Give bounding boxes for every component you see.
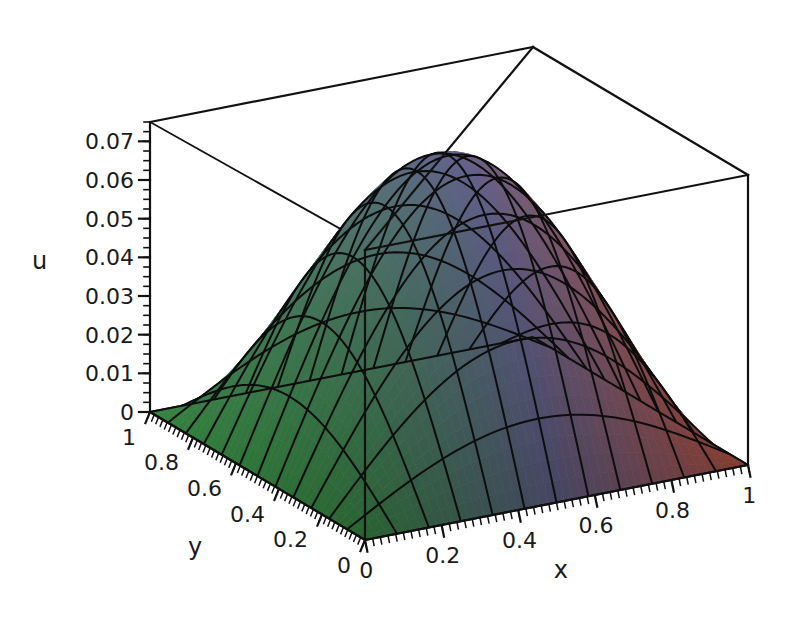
z-axis-tick-label: 0.01 [85,361,134,386]
x-axis-tick-label: 0.8 [655,498,690,523]
x-axis-tick-label: 0.6 [579,513,614,538]
x-axis-tick-label: 1 [742,483,756,508]
x-axis-tick-label: 0 [359,558,373,583]
y-axis-tick-label: 0.6 [187,476,222,501]
z-axis-tick-label: 0.04 [85,245,134,270]
x-axis-tick-label: 0.4 [502,528,537,553]
y-axis-tick-label: 1 [122,425,136,450]
y-axis-name: y [188,533,202,561]
surface-plot-svg: 00.010.020.030.040.050.060.07u10.80.60.4… [0,0,786,628]
x-axis-tick-label: 0.2 [425,543,460,568]
y-axis-tick-label: 0.2 [273,527,308,552]
z-axis-name: u [32,247,47,275]
y-axis-tick-label: 0.8 [144,450,179,475]
plot-canvas: 00.010.020.030.040.050.060.07u10.80.60.4… [0,0,786,628]
z-axis-tick-label: 0.06 [85,168,134,193]
y-axis-tick-label: 0 [337,553,351,578]
z-axis-tick-label: 0.05 [85,207,134,232]
z-axis-tick-label: 0.07 [85,129,134,154]
z-axis-tick-label: 0 [120,400,134,425]
z-axis-tick-label: 0.03 [85,284,134,309]
z-axis-tick-label: 0.02 [85,323,134,348]
y-axis-tick-label: 0.4 [230,502,265,527]
x-axis-name: x [554,556,568,584]
